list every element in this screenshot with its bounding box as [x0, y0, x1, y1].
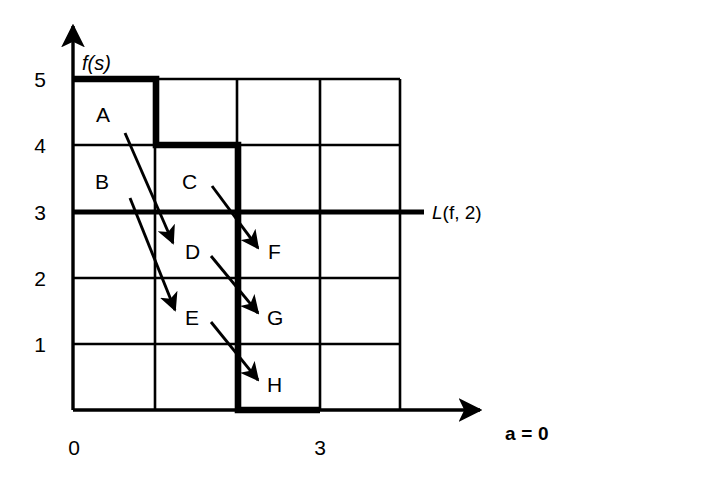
- parameter-block: a = 0 b = 3 x1 = 1x2 = 2x3 = 3: [505, 386, 659, 479]
- cell-label-d: D: [185, 241, 200, 262]
- y-tick-label-1: 1: [28, 334, 52, 355]
- level-line-label: L(f, 2): [432, 203, 482, 222]
- level-line-label-prefix: L: [432, 202, 443, 223]
- arrow-e-to-h: [211, 322, 258, 380]
- x-tick-label-0: 0: [62, 437, 86, 458]
- arrow-a-to-d: [125, 133, 173, 243]
- y-tick-label-2: 2: [28, 268, 52, 289]
- cell-label-g: G: [267, 307, 283, 328]
- cell-label-f: F: [268, 241, 281, 262]
- y-tick-label-5: 5: [28, 69, 52, 90]
- cell-label-a: A: [96, 104, 110, 125]
- y-tick-label-3: 3: [28, 202, 52, 223]
- arrow-d-to-g: [211, 256, 258, 313]
- y-axis-label: f(s): [82, 53, 111, 73]
- x-tick-label-3: 3: [308, 437, 332, 458]
- figure-root: 5 4 3 2 1 0 3 f(s) L(f, 2) A B C D E F G…: [0, 0, 714, 479]
- param-a: a = 0: [505, 424, 659, 449]
- cell-label-e: E: [185, 307, 199, 328]
- cell-label-b: B: [95, 171, 109, 192]
- arrow-b-to-e: [130, 198, 175, 310]
- y-tick-label-4: 4: [28, 135, 52, 156]
- cell-label-h: H: [267, 374, 282, 395]
- axes: [73, 26, 480, 410]
- cell-label-c: C: [182, 171, 197, 192]
- level-line-label-args: (f, 2): [443, 202, 482, 223]
